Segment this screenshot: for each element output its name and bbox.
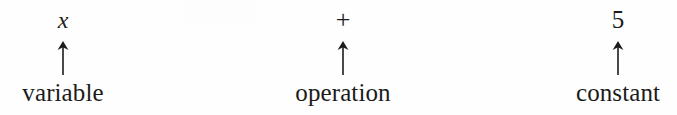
expression-symbol-constant: 5 xyxy=(612,2,625,38)
annotation-column-operation: + operation xyxy=(280,0,406,115)
up-arrow-icon-operation xyxy=(335,39,351,75)
scan-artifact xyxy=(185,0,255,22)
annotation-label-constant: constant xyxy=(576,79,660,107)
up-arrow-icon-variable xyxy=(55,39,71,75)
expression-annotation-diagram: x variable + operation 5 constant xyxy=(0,0,677,115)
expression-symbol-variable: x xyxy=(58,2,69,38)
annotation-column-variable: x variable xyxy=(0,0,126,115)
annotation-label-variable: variable xyxy=(22,79,103,107)
up-arrow-icon-constant xyxy=(610,39,626,75)
annotation-column-constant: 5 constant xyxy=(555,0,677,115)
annotation-label-operation: operation xyxy=(295,79,390,107)
expression-symbol-operation: + xyxy=(336,2,351,38)
